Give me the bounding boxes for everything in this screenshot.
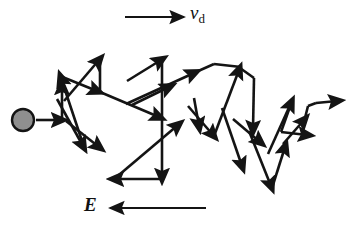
path-segment <box>308 103 316 106</box>
path-segment <box>305 106 308 118</box>
path-segment <box>253 78 254 129</box>
path-segment <box>214 64 241 67</box>
path-segment <box>272 147 285 188</box>
path-segment <box>188 106 213 135</box>
path-segment <box>113 125 178 180</box>
path-segment <box>132 87 169 105</box>
drift-velocity-label: vd <box>190 3 205 25</box>
path-segment <box>240 68 254 78</box>
drift-path <box>36 58 337 188</box>
electron-particle <box>12 109 34 131</box>
path-segment <box>233 119 260 142</box>
path-segment <box>281 101 292 132</box>
path-segment <box>126 73 194 104</box>
figure-canvas <box>0 0 348 230</box>
path-segment <box>249 131 271 186</box>
drift-velocity-subscript: d <box>198 11 205 26</box>
path-segment <box>196 64 214 72</box>
electric-field-label: E <box>84 195 97 214</box>
path-segment <box>316 101 337 103</box>
electron-drift-figure: vd E <box>0 0 348 230</box>
path-segment <box>222 108 242 166</box>
path-segment <box>127 60 161 81</box>
path-segment <box>214 70 239 136</box>
